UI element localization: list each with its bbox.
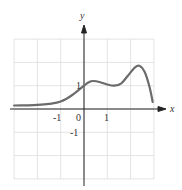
x-tick-label-neg1: -1 — [53, 112, 61, 123]
y-axis-arrow-icon — [82, 25, 87, 33]
y-tick-label-pos1: 1 — [76, 80, 81, 91]
x-axis-label: x — [169, 103, 175, 114]
y-axis-label: y — [79, 10, 85, 21]
y-tick-label-neg1: -1 — [70, 127, 78, 138]
function-graph: y x 0 -1 1 1 -1 — [0, 0, 182, 190]
x-axis-arrow-icon — [158, 107, 166, 112]
x-tick-label-pos1: 1 — [104, 112, 109, 123]
origin-label: 0 — [76, 112, 81, 123]
